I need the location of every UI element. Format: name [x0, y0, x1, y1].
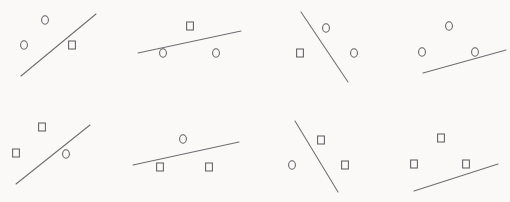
- panel-4-circle-marker-1: [419, 48, 426, 57]
- panel-3-square-marker-1: [297, 49, 304, 57]
- panel-5-trend-line: [16, 125, 90, 184]
- panel-4-circle-marker-0: [446, 22, 453, 31]
- scatter-panel-figure: [0, 0, 510, 202]
- panel-5-square-marker-0: [39, 123, 46, 131]
- panel-7-square-marker-2: [342, 161, 349, 169]
- panel-2-square-marker-0: [187, 22, 194, 30]
- panel-5-square-marker-1: [13, 149, 20, 157]
- panel-8-trend-line: [414, 164, 498, 191]
- panel-3-circle-marker-2: [351, 49, 358, 58]
- panel-7-trend-line: [295, 121, 338, 192]
- panel-6-square-marker-1: [157, 163, 164, 171]
- panel-7: [289, 121, 349, 192]
- panel-1-circle-marker-0: [42, 16, 49, 25]
- panel-2-circle-marker-1: [160, 49, 167, 58]
- panel-3-circle-marker-0: [323, 24, 330, 33]
- panel-8-square-marker-2: [463, 160, 470, 168]
- figure-canvas: [0, 0, 510, 202]
- panel-7-circle-marker-1: [289, 161, 296, 170]
- panel-8-square-marker-0: [438, 134, 445, 142]
- panel-4-trend-line: [423, 50, 506, 73]
- panel-3-trend-line: [301, 12, 348, 82]
- panel-4: [419, 22, 506, 73]
- panel-8-square-marker-1: [411, 160, 418, 168]
- panel-6-trend-line: [133, 142, 239, 165]
- panel-7-square-marker-0: [318, 136, 325, 144]
- panel-6-circle-marker-0: [180, 135, 187, 144]
- panel-8: [411, 134, 498, 191]
- panel-3: [297, 12, 358, 82]
- panel-1-square-marker-2: [69, 41, 76, 49]
- panel-1-circle-marker-1: [21, 41, 28, 50]
- panel-5-circle-marker-2: [63, 150, 70, 159]
- panel-6: [133, 135, 239, 171]
- panel-5: [13, 123, 90, 184]
- panel-4-circle-marker-2: [472, 48, 479, 57]
- panel-2-circle-marker-2: [213, 49, 220, 58]
- panel-2: [138, 22, 241, 57]
- panel-1-trend-line: [21, 14, 96, 76]
- panel-2-trend-line: [138, 31, 241, 53]
- panel-6-square-marker-2: [206, 163, 213, 171]
- panel-1: [21, 14, 96, 76]
